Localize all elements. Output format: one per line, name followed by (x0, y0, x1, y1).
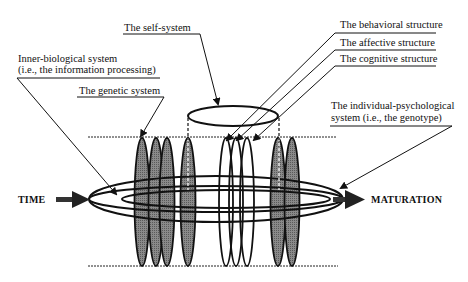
self-system-label: The self-system (124, 22, 191, 33)
affective-structure-label: The affective structure (340, 37, 435, 48)
individual-psych-label-line1: The individual-psychological (331, 100, 454, 111)
gray-ellipses (135, 138, 300, 266)
genetic-system-label: The genetic system (79, 85, 160, 96)
self-system-ellipse (188, 106, 278, 126)
diagram-canvas: The self-system Inner-biological system … (0, 0, 468, 282)
gray-ellipse-6 (285, 138, 300, 266)
maturation-label: MATURATION (371, 194, 442, 205)
time-label: TIME (18, 194, 45, 205)
genetic-system-leader (77, 97, 164, 136)
inner-biological-label-line1: Inner-biological system (18, 53, 117, 64)
individual-psych-label-line2: system (i.e., the genotype) (331, 112, 442, 123)
gray-ellipse-5 (271, 138, 286, 266)
behavioral-structure-label: The behavioral structure (340, 19, 443, 30)
genetic-ellipse-4 (181, 138, 196, 266)
cognitive-structure-label: The cognitive structure (340, 53, 437, 64)
inner-biological-label-line2: (i.e., the information processing) (18, 64, 156, 75)
genetic-ellipse-3 (160, 138, 175, 266)
outer-ring (89, 176, 343, 222)
horizontal-rings (89, 176, 343, 222)
genetic-ellipse-1 (135, 138, 150, 266)
individual-psych-leader (330, 126, 452, 188)
time-arrow (56, 191, 90, 208)
white-ellipses (219, 138, 254, 266)
